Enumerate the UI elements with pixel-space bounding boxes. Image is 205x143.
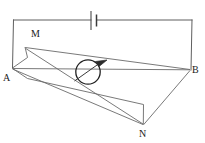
- rotating-coil-group: [75, 60, 108, 84]
- frame-edge-M-to-B: [25, 48, 190, 70]
- rotation-arrow-icon: [96, 60, 108, 67]
- vertex-label-a: A: [3, 73, 10, 83]
- wire-left-vertical: [13, 20, 14, 68]
- coil-frame-wireframe: [13, 47, 191, 125]
- wire-right-vertical: [191, 20, 192, 70]
- vertex-label-n: N: [139, 129, 146, 139]
- circuit-diagram-figure: A B M N: [0, 0, 205, 143]
- diagram-canvas: [0, 0, 205, 143]
- frame-edge-A-to-B: [13, 69, 190, 70]
- vertex-label-m: M: [31, 29, 40, 39]
- frame-edge-backbottom: [28, 79, 144, 105]
- frame-edge-A-to-Mbase: [13, 58, 28, 69]
- vertex-label-b: B: [192, 65, 199, 75]
- frame-edge-B-to-N: [144, 71, 191, 125]
- battery-symbol: [91, 11, 97, 30]
- frame-edge-left-riser: [13, 69, 28, 79]
